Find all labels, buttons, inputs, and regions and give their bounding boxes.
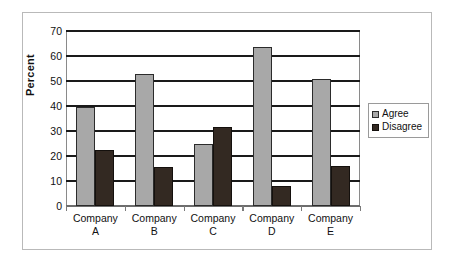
y-tick-label-0: 0: [36, 201, 62, 212]
bar-agree-1: [135, 74, 154, 207]
y-tick-label-50: 50: [36, 76, 62, 87]
x-category-label-line2: B: [125, 225, 184, 238]
x-category-label-4: CompanyE: [301, 212, 360, 237]
x-tick-mark-4: [301, 206, 302, 211]
x-tick-mark-3: [242, 206, 243, 211]
x-category-label-2: CompanyC: [184, 212, 243, 237]
x-category-label-line2: A: [66, 225, 125, 238]
bar-disagree-2: [213, 127, 232, 206]
gridline-70: [66, 30, 360, 32]
legend-swatch-agree-icon: [372, 111, 379, 118]
x-category-label-line1: Company: [184, 212, 243, 225]
x-category-label-line1: Company: [242, 212, 301, 225]
legend-swatch-disagree-icon: [372, 124, 379, 131]
x-category-label-3: CompanyD: [242, 212, 301, 237]
bar-agree-0: [76, 107, 95, 206]
x-category-label-line1: Company: [125, 212, 184, 225]
x-tick-mark-5: [360, 206, 361, 211]
bar-agree-3: [253, 47, 272, 206]
bar-disagree-3: [272, 186, 291, 206]
x-tick-mark-2: [184, 206, 185, 211]
bar-chart-figure: Percent 010203040506070 CompanyACompanyB…: [0, 0, 456, 268]
y-tick-label-30: 30: [36, 126, 62, 137]
legend-entry-disagree[interactable]: Disagree: [372, 121, 424, 133]
x-tick-mark-0: [66, 206, 67, 211]
x-category-label-line2: C: [184, 225, 243, 238]
y-tick-label-40: 40: [36, 101, 62, 112]
x-category-label-line2: D: [242, 225, 301, 238]
y-tick-label-10: 10: [36, 176, 62, 187]
x-category-label-line1: Company: [66, 212, 125, 225]
legend-label-agree: Agree: [382, 109, 409, 119]
bar-disagree-1: [154, 167, 173, 206]
chart-legend: AgreeDisagree: [368, 103, 429, 138]
legend-label-disagree: Disagree: [382, 122, 422, 132]
bar-agree-2: [194, 144, 213, 207]
gridline-60: [66, 55, 360, 57]
y-tick-label-60: 60: [36, 51, 62, 62]
bar-agree-4: [312, 79, 331, 207]
legend-entry-agree[interactable]: Agree: [372, 108, 424, 120]
x-category-label-line1: Company: [301, 212, 360, 225]
x-category-label-line2: E: [301, 225, 360, 238]
y-tick-label-20: 20: [36, 151, 62, 162]
bar-disagree-0: [95, 150, 114, 206]
bar-disagree-4: [331, 166, 350, 206]
x-category-label-0: CompanyA: [66, 212, 125, 237]
plot-area: [66, 31, 360, 206]
y-axis-tick-labels: 010203040506070: [32, 31, 62, 206]
y-tick-label-70: 70: [36, 26, 62, 37]
x-category-label-1: CompanyB: [125, 212, 184, 237]
x-tick-mark-1: [125, 206, 126, 211]
